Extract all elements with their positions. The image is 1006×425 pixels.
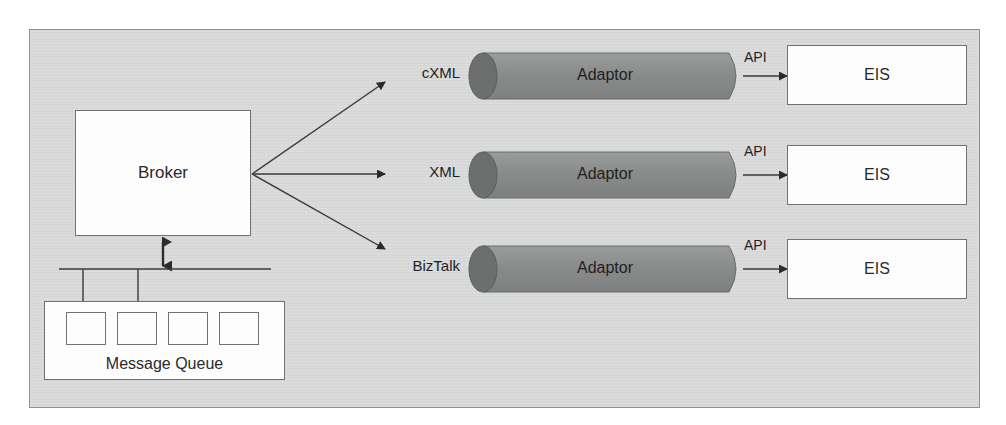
diagram-canvas: Broker Message Queue cXML XML BizTalk Ad… bbox=[0, 0, 1006, 425]
adaptor-cylinder-cxml[interactable]: Adaptor bbox=[468, 52, 742, 98]
message-queue-slot bbox=[66, 312, 106, 345]
protocol-label-xml: XML bbox=[350, 163, 460, 180]
message-queue-label: Message Queue bbox=[45, 355, 284, 373]
broker-box[interactable]: Broker bbox=[75, 110, 251, 236]
adaptor-label: Adaptor bbox=[468, 151, 742, 197]
eis-box-biztalk[interactable]: EIS bbox=[787, 239, 967, 299]
eis-box-xml[interactable]: EIS bbox=[787, 145, 967, 205]
protocol-label-cxml: cXML bbox=[350, 64, 460, 81]
message-queue-box[interactable]: Message Queue bbox=[44, 301, 285, 380]
adaptor-cylinder-xml[interactable]: Adaptor bbox=[468, 151, 742, 197]
api-label: API bbox=[744, 237, 767, 253]
message-bus bbox=[59, 269, 271, 302]
api-label: API bbox=[744, 49, 767, 65]
adaptor-cylinder-biztalk[interactable]: Adaptor bbox=[468, 245, 742, 291]
broker-label: Broker bbox=[138, 163, 188, 183]
api-label: API bbox=[744, 143, 767, 159]
protocol-label-biztalk: BizTalk bbox=[340, 257, 460, 274]
adaptor-label: Adaptor bbox=[468, 245, 742, 291]
adaptor-label: Adaptor bbox=[468, 52, 742, 98]
eis-label: EIS bbox=[864, 66, 890, 84]
message-queue-slot bbox=[168, 312, 208, 345]
eis-label: EIS bbox=[864, 260, 890, 278]
eis-box-cxml[interactable]: EIS bbox=[787, 45, 967, 105]
message-queue-slot bbox=[117, 312, 157, 345]
message-queue-slot bbox=[219, 312, 259, 345]
eis-label: EIS bbox=[864, 166, 890, 184]
